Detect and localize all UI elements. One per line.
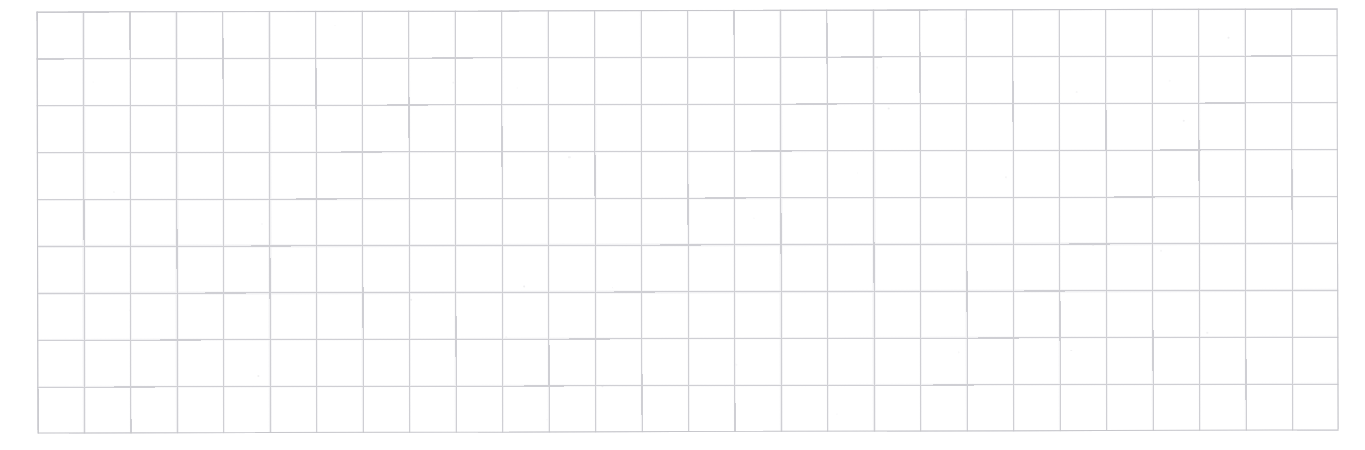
page-margin-bottom [1,430,1365,450]
grid-block [36,8,1338,433]
scan-skew-wrapper [0,0,1365,450]
grid-outer-frame [36,8,1338,433]
scanned-grid-page [0,0,1365,450]
page-margin-left [0,2,38,450]
page-margin-right [1337,0,1365,448]
